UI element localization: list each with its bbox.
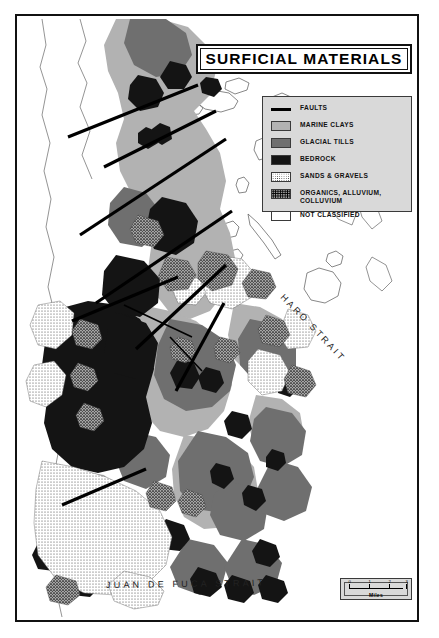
- marine-clay-swatch: [271, 121, 291, 131]
- svg-text:HARO STRAIT: HARO STRAIT: [278, 292, 347, 363]
- unclassified-swatch: [271, 211, 291, 221]
- legend-item-glacial-tills: GLACIAL TILLS: [263, 136, 411, 153]
- scale-tick-3: [406, 584, 407, 589]
- legend-label-bedrock: BEDROCK: [300, 153, 336, 163]
- sand-gravel-swatch: [271, 172, 291, 182]
- map-title-box-inner: SURFICIAL MATERIALS: [200, 48, 408, 70]
- map-legend: FAULTS MARINE CLAYS GLACIAL TILLS BEDROC…: [262, 96, 412, 212]
- fault-line-swatch: [271, 104, 291, 114]
- legend-label-organics: ORGANICS, ALLUVIUM, COLLUVIUM: [300, 187, 382, 204]
- legend-item-faults: FAULTS: [263, 102, 411, 119]
- legend-item-bedrock: BEDROCK: [263, 153, 411, 170]
- organics-swatch: [271, 189, 291, 199]
- scale-tick-0: [349, 584, 350, 589]
- legend-item-organics: ORGANICS, ALLUVIUM, COLLUVIUM: [263, 187, 411, 209]
- legend-label-marine-clays: MARINE CLAYS: [300, 119, 354, 129]
- scale-number-0: 0: [348, 579, 350, 584]
- legend-item-marine-clays: MARINE CLAYS: [263, 119, 411, 136]
- legend-label-not-classified: NOT CLASSIFIED: [300, 209, 360, 219]
- scale-tick-1: [369, 584, 370, 589]
- legend-label-sands-gravels: SANDS & GRAVELS: [300, 170, 368, 180]
- map-title-box: SURFICIAL MATERIALS: [196, 44, 412, 74]
- page-title: SURFICIAL MATERIALS: [206, 50, 403, 68]
- scale-number-2: 2: [388, 579, 390, 584]
- scale-bar-axis: [349, 588, 403, 589]
- svg-text:JUAN DE FUCA STRAIT: JUAN DE FUCA STRAIT: [106, 577, 267, 590]
- legend-item-sands-gravels: SANDS & GRAVELS: [263, 170, 411, 187]
- scale-units-label: Miles: [345, 592, 407, 598]
- scale-number-1: 1: [368, 579, 370, 584]
- map-scale-bar: 0 1 2 3 Miles: [340, 578, 412, 600]
- legend-item-not-classified: NOT CLASSIFIED: [263, 209, 411, 226]
- bedrock-swatch: [271, 155, 291, 165]
- glacial-till-swatch: [271, 138, 291, 148]
- scale-tick-2: [389, 584, 390, 589]
- haro-strait-label: HARO STRAIT: [278, 292, 388, 392]
- legend-label-glacial-tills: GLACIAL TILLS: [300, 136, 354, 146]
- legend-label-faults: FAULTS: [300, 102, 327, 112]
- juan-de-fuca-strait-label: JUAN DE FUCA STRAIT: [104, 556, 344, 596]
- scale-bar-inner: 0 1 2 3 Miles: [344, 582, 408, 596]
- scale-number-3: 3: [405, 579, 407, 584]
- surficial-materials-map: SURFICIAL MATERIALS FAULTS MARINE CLAYS …: [0, 0, 439, 638]
